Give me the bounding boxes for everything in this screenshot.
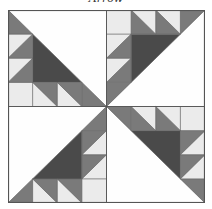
- quadrant-top-left: [8, 10, 107, 107]
- quadrant-top-right: [107, 10, 206, 107]
- quadrant-bottom-left: [8, 107, 107, 204]
- block-title: Arrow: [0, 0, 212, 5]
- quadrant-bottom-right: [107, 107, 206, 204]
- quilt-block: [8, 10, 205, 203]
